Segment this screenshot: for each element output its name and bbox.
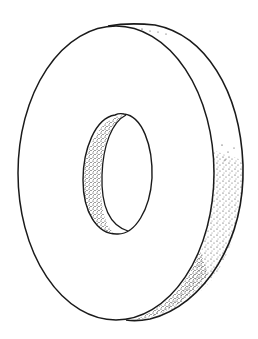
ring-front-outer-edge: [18, 26, 214, 320]
illustration-canvas: washer / flat ring drawn in perspective: [0, 0, 258, 339]
ring-drawing: [0, 0, 258, 339]
hole-inner-wall-shading: [83, 115, 126, 234]
top-rim-dots: [141, 28, 234, 160]
